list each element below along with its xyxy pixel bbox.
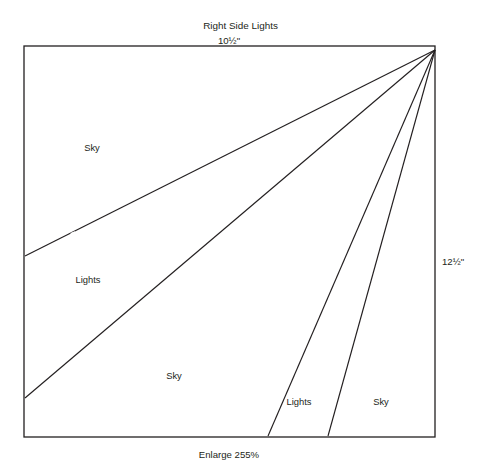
region-label-sky-2: Sky bbox=[166, 370, 182, 381]
region-label-lights-1: Lights bbox=[75, 274, 100, 285]
pattern-diagram: Right Side Lights 10½" SkyLightsSkyLight… bbox=[0, 0, 481, 469]
diagram-title: Right Side Lights bbox=[203, 20, 278, 31]
diagram-canvas: Right Side Lights 10½" SkyLightsSkyLight… bbox=[0, 0, 481, 469]
right-dimension-label: 12½" bbox=[442, 256, 464, 267]
region-label-sky-0: Sky bbox=[84, 142, 100, 153]
enlarge-footer-label: Enlarge 255% bbox=[199, 449, 260, 460]
top-dimension-label: 10½" bbox=[218, 35, 240, 46]
region-label-lights-3: Lights bbox=[286, 396, 311, 407]
pattern-block-outline bbox=[24, 46, 435, 437]
region-label-sky-4: Sky bbox=[373, 396, 389, 407]
